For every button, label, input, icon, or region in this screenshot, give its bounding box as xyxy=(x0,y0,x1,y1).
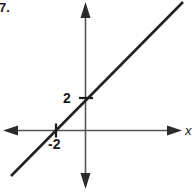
plotted-line xyxy=(11,2,183,176)
y-axis-tick-label-2: 2 xyxy=(63,91,71,105)
problem-number-label: 7. xyxy=(0,1,10,14)
y-axis-up-arrow-icon xyxy=(81,2,91,18)
x-axis-left-arrow-icon xyxy=(3,126,18,136)
x-axis-right-arrow-icon xyxy=(167,126,182,136)
x-axis-tick-label-negative-2: -2 xyxy=(48,137,60,151)
graph-figure xyxy=(0,0,195,193)
x-axis-label: x xyxy=(185,124,192,137)
y-axis-down-arrow-icon xyxy=(81,173,91,189)
